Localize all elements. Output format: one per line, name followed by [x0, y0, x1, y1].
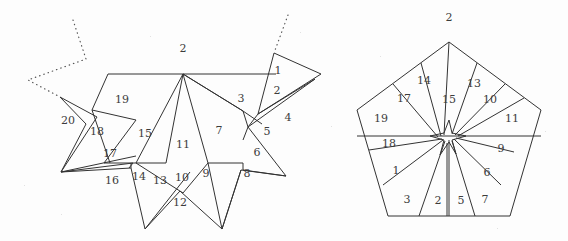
left-cell-label-11: 11	[176, 138, 190, 151]
left-cell-label-20: 20	[61, 114, 75, 127]
diagram-canvas: 2 1 2 3 4 5 6 7 8 9 10 11 12 13 14 15 16…	[0, 0, 568, 241]
left-cell-label-7: 7	[216, 124, 223, 137]
left-bottom-spike-right-inner	[208, 163, 222, 229]
left-cell-label-4: 4	[285, 111, 292, 124]
right-pentagon-figure	[357, 42, 541, 216]
paper-speck	[545, 131, 546, 132]
left-cell-label-13: 13	[153, 174, 167, 187]
right-outer-label-2: 2	[446, 11, 453, 24]
right-cell-label-9: 9	[498, 142, 505, 155]
left-cell-label-19: 19	[115, 93, 129, 106]
left-star-figure	[60, 53, 321, 229]
left-cell-label-8: 8	[244, 167, 251, 180]
paper-speck	[24, 185, 25, 186]
left-spike-20-down	[61, 124, 86, 172]
right-cell-label-18: 18	[382, 137, 396, 150]
left-cell-label-6: 6	[254, 146, 261, 159]
right-cell-label-19: 19	[374, 112, 388, 125]
right-cell-label-2: 2	[435, 194, 442, 207]
right-cell-label-5: 5	[458, 194, 465, 207]
right-cell-label-14: 14	[417, 74, 431, 87]
right-cell-label-15: 15	[442, 93, 456, 106]
left-cell-4-wedge	[248, 79, 315, 127]
left-cell-8-9-edge	[222, 170, 241, 229]
left-cell-label-18: 18	[90, 125, 104, 138]
left-cell-label-1: 1	[275, 64, 282, 77]
right-cell-label-3: 3	[404, 193, 411, 206]
left-cell-label-17: 17	[103, 147, 117, 160]
left-wing-19-lower	[92, 110, 136, 120]
left-wing-19-edge	[92, 74, 108, 110]
paper-speck	[380, 56, 381, 57]
right-cell-label-17: 17	[397, 92, 411, 105]
paper-speck	[150, 36, 151, 37]
right-cell-label-10: 10	[483, 93, 497, 106]
paper-speck	[331, 126, 332, 127]
pentagon-spoke-13	[455, 84, 505, 135]
paper-speck	[497, 228, 498, 229]
upper-left-dotted-zigzag	[28, 20, 86, 97]
left-cell-label-3: 3	[238, 92, 245, 105]
left-outer-label-2: 2	[180, 42, 187, 55]
left-cell-label-2: 2	[274, 84, 281, 97]
left-cell-label-14: 14	[132, 170, 146, 183]
left-cell-label-9: 9	[203, 167, 210, 180]
left-cell-label-15: 15	[138, 127, 152, 140]
right-cell-label-7: 7	[482, 193, 489, 206]
right-cell-label-1: 1	[393, 164, 400, 177]
left-cell-5-6-split	[243, 111, 248, 140]
right-cell-label-6: 6	[484, 166, 491, 179]
pentagon-central-star	[430, 120, 466, 155]
paper-speck	[61, 214, 62, 215]
paper-speck	[300, 32, 301, 33]
left-cell-label-10: 10	[175, 171, 189, 184]
pentagon-spoke-7	[454, 139, 501, 185]
right-cell-label-13: 13	[467, 77, 481, 90]
left-dotted-construction	[28, 15, 288, 97]
right-cell-label-11: 11	[505, 112, 519, 125]
left-cell-label-12: 12	[173, 196, 187, 209]
upper-right-dotted-line	[274, 15, 288, 53]
left-cell-label-5: 5	[264, 125, 271, 138]
left-cell-label-16: 16	[105, 174, 119, 187]
